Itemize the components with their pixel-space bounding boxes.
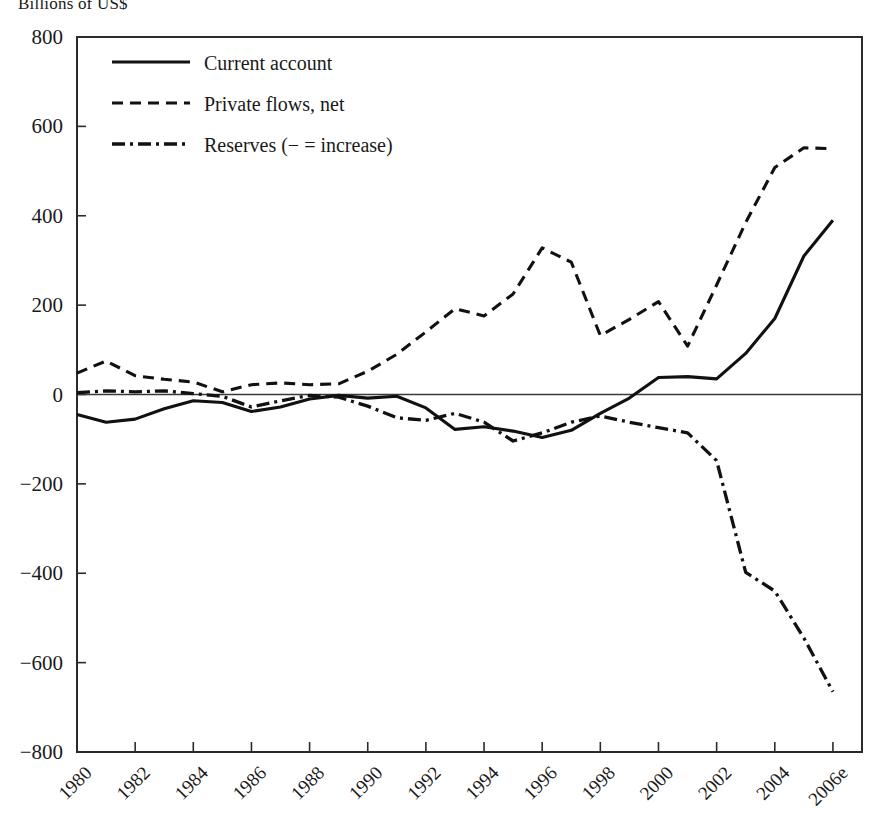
chart-plot-area: 8006004002000−200−400−600−800 1980198219… [0, 0, 875, 819]
chart-container: Billions of US$ 8006004002000−200−400−60… [0, 0, 875, 819]
y-axis-tick-label: −400 [20, 561, 63, 585]
chart-legend: Current accountPrivate flows, netReserve… [112, 52, 393, 157]
y-axis-tick-label: −200 [20, 472, 63, 496]
series-line [77, 391, 833, 692]
series-lines [77, 148, 833, 692]
y-axis-tick-label: −600 [20, 651, 63, 675]
x-axis-tick-label: 1990 [345, 762, 387, 804]
x-axis-tick-label: 1980 [54, 762, 96, 804]
y-axis-tick-label: 0 [53, 383, 64, 407]
x-axis-tick-label: 1994 [461, 762, 503, 804]
x-axis-tick-label: 1998 [577, 762, 619, 804]
legend-label: Current account [204, 52, 333, 74]
y-axis-tick-label: 200 [32, 293, 64, 317]
x-axis-tick-label: 1986 [229, 762, 271, 804]
x-axis-tick-label: 1988 [287, 762, 329, 804]
y-axis-tick-label: −800 [20, 740, 63, 764]
legend-label: Reserves (− = increase) [204, 134, 393, 157]
x-axis-tick-label: 2004 [752, 762, 794, 804]
y-axis-tick-label: 600 [32, 114, 64, 138]
x-axis-tick-label: 2000 [636, 762, 678, 804]
x-axis-tick-label: 1984 [170, 762, 212, 804]
series-line [77, 148, 833, 392]
y-axis-tick-label: 400 [32, 204, 64, 228]
x-axis-tick-label: 1982 [112, 762, 154, 804]
x-axis-tick-label: 2006e [804, 762, 852, 810]
x-axis-tick-label: 2002 [694, 762, 736, 804]
x-axis-tick-label: 1996 [519, 762, 561, 804]
series-line [77, 220, 833, 437]
y-axis-tick-label: 800 [32, 25, 64, 49]
legend-label: Private flows, net [204, 93, 345, 115]
x-axis-tick-label: 1992 [403, 762, 445, 804]
